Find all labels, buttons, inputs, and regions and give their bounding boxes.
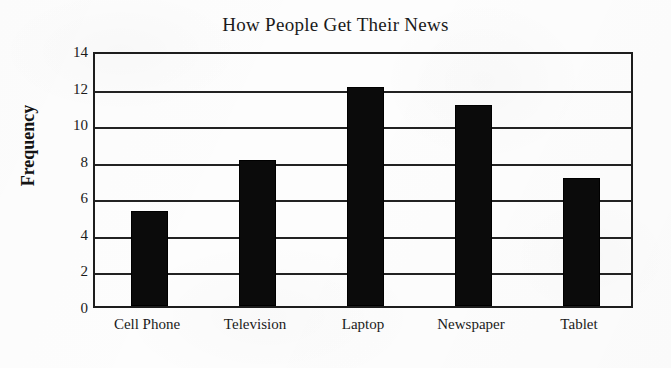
x-axis-tick-label: Television [224, 316, 286, 333]
y-axis-tick-label: 2 [48, 263, 88, 280]
y-axis-tick-label: 14 [48, 44, 88, 61]
x-axis-tick-label: Newspaper [437, 316, 504, 333]
bar [455, 105, 492, 306]
x-axis-tick-label: Laptop [342, 316, 385, 333]
x-axis-tick-label: Tablet [560, 316, 597, 333]
bar [239, 160, 276, 306]
y-axis-tick-label: 0 [48, 300, 88, 317]
y-axis-tick-label: 10 [48, 117, 88, 134]
y-axis-tick-label: 8 [48, 153, 88, 170]
chart-title: How People Get Their News [0, 14, 671, 36]
bar [563, 178, 600, 306]
bar [347, 87, 384, 306]
y-axis-tick-label: 4 [48, 226, 88, 243]
plot-area [93, 52, 633, 308]
y-axis-title: Frequency [18, 71, 39, 221]
x-axis-tick-label: Cell Phone [114, 316, 180, 333]
chart-page: How People Get Their News Frequency 0246… [0, 0, 671, 368]
y-axis-tick-label: 12 [48, 80, 88, 97]
y-axis-tick-label: 6 [48, 190, 88, 207]
bar [131, 211, 168, 306]
